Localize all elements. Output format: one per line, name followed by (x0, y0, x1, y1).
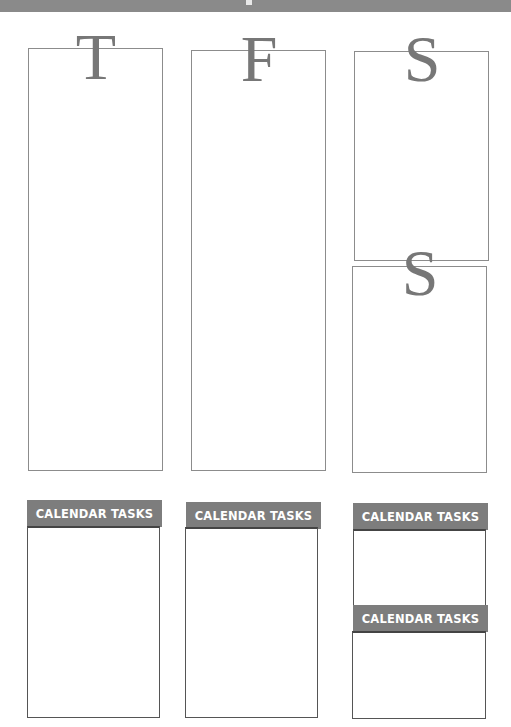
title-glyph-fragment (246, 0, 252, 5)
tasks-header-thursday: CALENDAR TASKS (27, 500, 162, 527)
tasks-box-friday[interactable] (185, 527, 318, 718)
day-box-thursday[interactable] (28, 48, 163, 471)
day-letter-friday: F (219, 26, 299, 92)
tasks-box-sunday[interactable] (352, 631, 486, 719)
header-band (0, 0, 511, 12)
tasks-box-saturday[interactable] (353, 529, 486, 606)
tasks-header-friday: CALENDAR TASKS (186, 502, 321, 529)
tasks-header-saturday: CALENDAR TASKS (353, 503, 488, 530)
day-letter-thursday: T (56, 24, 136, 90)
day-box-friday[interactable] (191, 50, 326, 471)
day-letter-sunday: S (380, 240, 460, 306)
tasks-header-sunday: CALENDAR TASKS (353, 605, 488, 632)
day-letter-saturday: S (382, 26, 462, 92)
tasks-box-thursday[interactable] (27, 526, 160, 718)
